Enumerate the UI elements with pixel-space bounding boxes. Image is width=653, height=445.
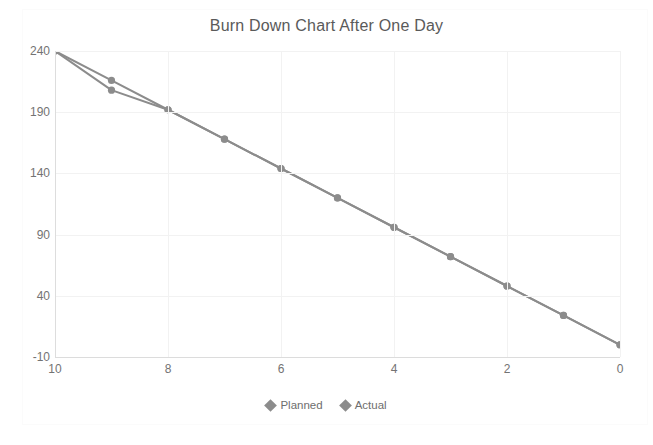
- x-axis-tick-label: 2: [504, 362, 511, 376]
- x-axis-tick-label: 8: [165, 362, 172, 376]
- y-axis-tick-label: 90: [37, 228, 50, 242]
- chart-title: Burn Down Chart After One Day: [0, 17, 653, 35]
- x-axis-line: [55, 357, 620, 358]
- series-lines-svg: [55, 51, 620, 357]
- data-point-marker[interactable]: [560, 312, 567, 319]
- gridline-vertical: [620, 51, 621, 357]
- gridline-horizontal: [55, 173, 620, 174]
- gridline-vertical: [168, 51, 169, 357]
- x-axis-tick-label: 10: [48, 362, 61, 376]
- legend-item-actual[interactable]: Actual: [341, 400, 387, 412]
- y-axis-tick-label: 40: [37, 289, 50, 303]
- y-axis-tick-label: 240: [30, 44, 50, 58]
- burn-down-chart: Burn Down Chart After One Day 2401901409…: [0, 0, 653, 445]
- y-axis-line: [55, 51, 56, 357]
- x-axis-tick-labels: 1086420: [55, 362, 620, 380]
- legend-item-planned[interactable]: Planned: [266, 400, 322, 412]
- legend-diamond-icon: [265, 399, 278, 412]
- y-axis-tick-labels: 2401901409040-10: [0, 51, 50, 357]
- gridline-vertical: [507, 51, 508, 357]
- legend-label: Planned: [280, 400, 322, 412]
- plot-area: [55, 51, 620, 357]
- chart-legend: PlannedActual: [0, 400, 653, 412]
- data-point-marker[interactable]: [108, 87, 115, 94]
- x-axis-tick-label: 0: [617, 362, 624, 376]
- gridline-vertical: [281, 51, 282, 357]
- gridline-horizontal: [55, 235, 620, 236]
- data-point-marker[interactable]: [334, 194, 341, 201]
- x-axis-tick-label: 6: [278, 362, 285, 376]
- gridline-horizontal: [55, 296, 620, 297]
- legend-diamond-icon: [339, 399, 352, 412]
- data-point-marker[interactable]: [221, 136, 228, 143]
- y-axis-tick-label: 140: [30, 166, 50, 180]
- gridline-horizontal: [55, 112, 620, 113]
- y-axis-tick-label: 190: [30, 105, 50, 119]
- legend-label: Actual: [355, 400, 387, 412]
- x-axis-tick-label: 4: [391, 362, 398, 376]
- gridline-vertical: [394, 51, 395, 357]
- data-point-marker[interactable]: [447, 253, 454, 260]
- data-point-marker[interactable]: [108, 77, 115, 84]
- gridline-horizontal: [55, 51, 620, 52]
